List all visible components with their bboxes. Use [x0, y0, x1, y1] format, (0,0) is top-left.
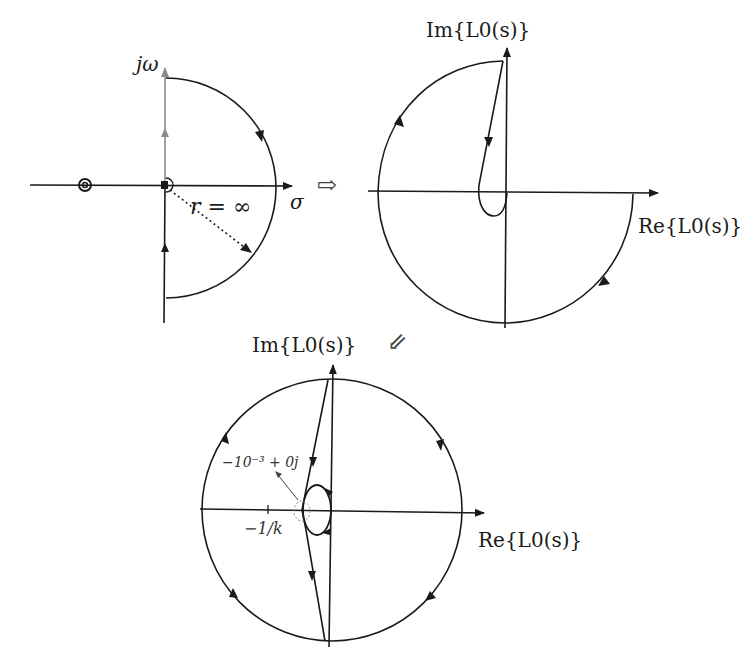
- diagram-canvas: [0, 0, 756, 662]
- circle-arrow-lower-left: [229, 588, 238, 598]
- re-axis-label-2: Re{L0(s)}: [478, 530, 582, 550]
- down-left-arrow-icon: ⇙: [387, 330, 407, 354]
- im-axis-label-2: Im{L0(s)}: [252, 335, 356, 355]
- infinite-semicircle: [166, 78, 276, 298]
- circle-arrow-upper-left: [221, 432, 229, 444]
- radius-label: r = ∞: [190, 196, 251, 218]
- direction-arrow-lower: [161, 243, 169, 252]
- annotation-leader: [278, 475, 298, 500]
- jw-axis-lower: [164, 186, 165, 323]
- s-plane-panel: [30, 68, 292, 323]
- pole-at-origin: [161, 181, 168, 189]
- nyquist-tail-1: [479, 61, 507, 216]
- tail-arrow-down: [484, 137, 493, 147]
- re-axis-1: [368, 191, 658, 193]
- im-axis-label-1: Im{L0(s)}: [426, 20, 530, 40]
- circle-arrow-lower-right: [425, 591, 436, 601]
- circle-arrow-upper-right: [436, 439, 444, 451]
- sigma-axis-label: σ: [290, 192, 304, 212]
- right-arrow-icon: ⇨: [317, 173, 337, 197]
- minus-one-over-k-label: −1/k: [244, 521, 283, 537]
- direction-arrow-upper: [161, 128, 169, 137]
- re-axis-2: [200, 509, 484, 513]
- jw-axis-label: jω: [136, 54, 159, 74]
- re-axis-label-1: Re{L0(s)}: [638, 216, 742, 236]
- im-axis-1: [505, 48, 507, 328]
- critical-point-annotation: −10⁻³ + 0j: [222, 455, 298, 469]
- annotation-leader-head: [275, 471, 282, 478]
- nyquist-plot-2: [200, 365, 484, 647]
- semicircle-direction-arrow: [255, 130, 264, 142]
- nyquist-plot-1: [368, 48, 658, 328]
